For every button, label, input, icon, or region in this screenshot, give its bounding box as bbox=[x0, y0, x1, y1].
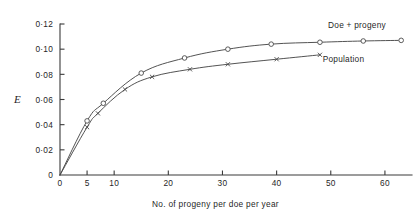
series-label-1: Doe + progeny bbox=[328, 20, 387, 30]
x-tick-label: 20 bbox=[163, 178, 173, 188]
x-tick-label: 10 bbox=[109, 178, 119, 188]
data-point-cross bbox=[85, 125, 89, 129]
data-point-cross bbox=[96, 111, 100, 115]
x-tick-label: 40 bbox=[272, 178, 282, 188]
x-tick-label: 30 bbox=[218, 178, 228, 188]
data-point-circle bbox=[139, 71, 144, 76]
x-tick-label: 5 bbox=[85, 178, 90, 188]
y-axis-title: E bbox=[13, 93, 21, 105]
x-axis-title: No. of progeny per doe per year bbox=[152, 199, 279, 209]
y-tick-label: 0·08 bbox=[35, 70, 53, 80]
y-tick-label: 0·02 bbox=[35, 145, 53, 155]
y-tick-label: 0·12 bbox=[35, 19, 53, 29]
data-point-cross bbox=[123, 87, 127, 91]
x-tick-label: 60 bbox=[380, 178, 390, 188]
x-tick-label: 0 bbox=[58, 178, 63, 188]
data-point-circle bbox=[226, 47, 231, 52]
data-point-circle bbox=[361, 39, 366, 44]
x-tick-label: 50 bbox=[326, 178, 336, 188]
chart-figure: 05102030405060 00·020·040·060·080·100·12… bbox=[0, 0, 414, 220]
data-point-circle bbox=[101, 101, 106, 106]
data-markers bbox=[85, 38, 404, 129]
data-point-circle bbox=[399, 38, 404, 43]
y-tick-label: 0 bbox=[48, 170, 53, 180]
series-annotations: Doe + progenyPopulation bbox=[323, 20, 387, 64]
y-tick-label: 0·06 bbox=[35, 95, 53, 105]
x-axis-ticks: 05102030405060 bbox=[58, 171, 390, 189]
data-point-circle bbox=[182, 56, 187, 61]
progeny-efficiency-line-chart: 05102030405060 00·020·040·060·080·100·12… bbox=[0, 0, 414, 220]
data-point-circle bbox=[85, 119, 90, 124]
data-point-circle bbox=[318, 40, 323, 45]
y-tick-label: 0·10 bbox=[35, 44, 53, 54]
series-label-2: Population bbox=[323, 54, 365, 64]
y-tick-label: 0·04 bbox=[35, 120, 53, 130]
data-point-circle bbox=[269, 42, 274, 47]
